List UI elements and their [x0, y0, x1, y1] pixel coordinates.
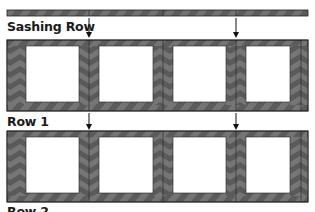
row-2-label: Row 2	[7, 204, 49, 212]
row-1-label: Row 1	[7, 114, 49, 129]
block-row-2	[7, 131, 308, 202]
sashing-row-label: Sashing Row	[7, 19, 95, 34]
arrow-icon	[233, 113, 239, 130]
arrow-icon	[86, 113, 92, 130]
sashing-strip	[7, 10, 308, 16]
block-row-1	[7, 40, 308, 111]
arrow-icon	[233, 18, 239, 38]
